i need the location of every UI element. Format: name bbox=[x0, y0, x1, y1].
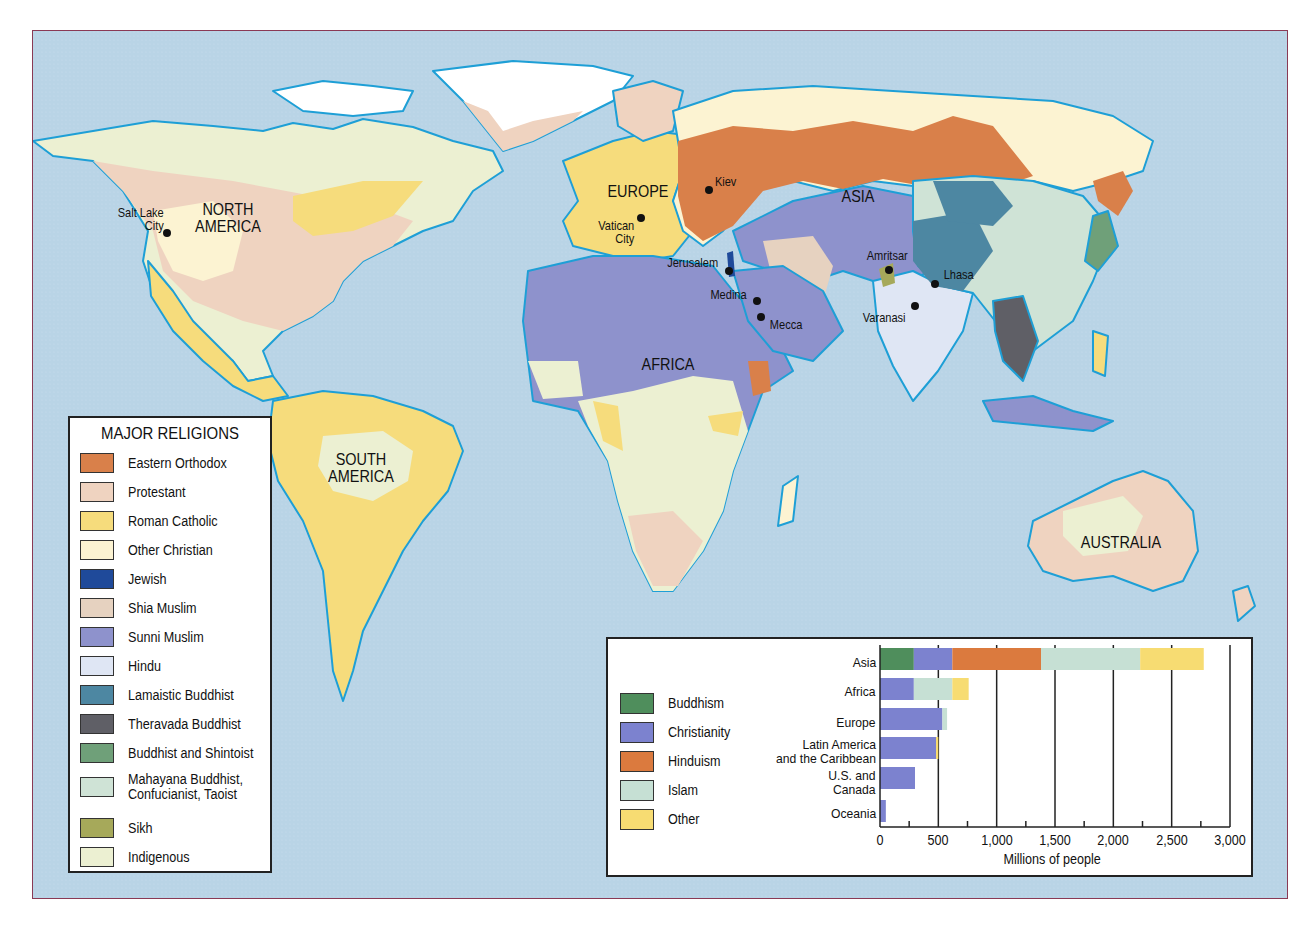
label-europe: EUROPE bbox=[604, 183, 672, 200]
x-tick-label: 2,000 bbox=[1098, 832, 1130, 848]
bar-segment bbox=[1140, 648, 1204, 670]
legend-title: MAJOR RELIGIONS bbox=[82, 424, 258, 444]
swatch-shia-muslim bbox=[80, 598, 114, 618]
x-tick-label: 1,500 bbox=[1039, 832, 1071, 848]
x-tick-label: 0 bbox=[876, 832, 883, 848]
label-salt-lake-city-line2: City bbox=[104, 219, 164, 232]
legend-item-eastern-orthodox: Eastern Orthodox bbox=[80, 450, 238, 476]
gridlines bbox=[938, 645, 1230, 827]
bar-segment bbox=[880, 767, 915, 789]
label-asia: ASIA bbox=[833, 188, 884, 205]
label-lhasa: Lhasa bbox=[944, 268, 974, 281]
legend-label: Buddhist and Shintoist bbox=[128, 746, 253, 761]
legend-item-sunni-muslim: Sunni Muslim bbox=[80, 624, 212, 650]
swatch-indigenous bbox=[80, 847, 114, 867]
bar-segment bbox=[880, 678, 914, 700]
population-by-religion-chart: Buddhism Christianity Hinduism Islam Oth… bbox=[606, 637, 1253, 877]
swatch-other-christian bbox=[80, 540, 114, 560]
swatch-eastern-orthodox bbox=[80, 453, 114, 473]
label-salt-lake-city: Salt Lake City bbox=[104, 206, 164, 232]
x-tick-label: 1,000 bbox=[981, 832, 1013, 848]
swatch-sikh bbox=[80, 818, 114, 838]
city-dot-lhasa bbox=[931, 280, 939, 288]
swatch-lamaistic-buddhist bbox=[80, 685, 114, 705]
legend-label: Other Christian bbox=[128, 543, 213, 558]
label-vatican-city-line2: City bbox=[592, 232, 635, 245]
legend-label: Shia Muslim bbox=[128, 601, 197, 616]
x-axis-title: Millions of people bbox=[1003, 851, 1100, 867]
x-tick-label: 3,000 bbox=[1214, 832, 1246, 848]
city-dot-salt-lake-city bbox=[163, 229, 171, 237]
legend-label-line2: Confucianist, Taoist bbox=[128, 787, 243, 802]
swatch-protestant bbox=[80, 482, 114, 502]
legend-label: Lamaistic Buddhist bbox=[128, 688, 234, 703]
swatch-mahayana bbox=[80, 777, 114, 797]
bar-segment bbox=[880, 800, 886, 822]
legend-item-protestant: Protestant bbox=[80, 479, 192, 505]
x-tick-label: 500 bbox=[928, 832, 949, 848]
bars bbox=[880, 648, 1204, 822]
bar-segment bbox=[1041, 648, 1140, 670]
legend-label: Eastern Orthodox bbox=[128, 456, 227, 471]
legend-item-indigenous: Indigenous bbox=[80, 844, 197, 870]
legend-item-other-christian: Other Christian bbox=[80, 537, 222, 563]
label-jerusalem: Jerusalem bbox=[663, 256, 718, 269]
bar-segment bbox=[952, 648, 1041, 670]
legend-item-shia-muslim: Shia Muslim bbox=[80, 595, 204, 621]
label-south-america: SOUTH AMERICA bbox=[319, 451, 404, 485]
legend-label: Theravada Buddhist bbox=[128, 717, 241, 732]
label-south-america-line1: SOUTH bbox=[319, 451, 404, 468]
bar-segment bbox=[914, 678, 953, 700]
legend-item-lamaistic-buddhist: Lamaistic Buddhist bbox=[80, 682, 246, 708]
swatch-roman-catholic bbox=[80, 511, 114, 531]
bar-segment bbox=[936, 737, 938, 759]
label-amritsar: Amritsar bbox=[867, 249, 908, 262]
city-dot-amritsar bbox=[885, 266, 893, 274]
swatch-buddhist-shintoist bbox=[80, 743, 114, 763]
swatch-hindu bbox=[80, 656, 114, 676]
city-dot-medina bbox=[753, 297, 761, 305]
legend-item-hindu: Hindu bbox=[80, 653, 165, 679]
city-dot-jerusalem bbox=[725, 267, 733, 275]
x-tick-label: 2,500 bbox=[1156, 832, 1188, 848]
swatch-theravada-buddhist bbox=[80, 714, 114, 734]
label-mecca: Mecca bbox=[770, 318, 803, 331]
label-varanasi: Varanasi bbox=[863, 311, 906, 324]
bar-segment bbox=[880, 737, 936, 759]
legend-label: Hindu bbox=[128, 659, 161, 674]
swatch-sunni-muslim bbox=[80, 627, 114, 647]
label-kiev: Kiev bbox=[715, 175, 737, 188]
label-south-america-line2: AMERICA bbox=[319, 468, 404, 485]
legend-label: Protestant bbox=[128, 485, 185, 500]
label-africa: AFRICA bbox=[634, 356, 702, 373]
legend-label: Jewish bbox=[128, 572, 167, 587]
legend-item-jewish: Jewish bbox=[80, 566, 171, 592]
legend-item-roman-catholic: Roman Catholic bbox=[80, 508, 228, 534]
legend-item-theravada-buddhist: Theravada Buddhist bbox=[80, 711, 253, 737]
legend-label: Mahayana Buddhist, Confucianist, Taoist bbox=[128, 772, 243, 801]
bar-segment bbox=[952, 678, 968, 700]
label-medina: Medina bbox=[708, 288, 746, 301]
city-dot-mecca bbox=[757, 313, 765, 321]
label-vatican-city: Vatican City bbox=[592, 219, 635, 245]
label-north-america-line1: NORTH bbox=[186, 201, 271, 218]
city-dot-vatican-city bbox=[637, 214, 645, 222]
bar-segment bbox=[880, 708, 942, 730]
major-religions-legend: MAJOR RELIGIONS Eastern Orthodox Protest… bbox=[68, 416, 272, 873]
bar-segment bbox=[914, 648, 953, 670]
label-north-america: NORTH AMERICA bbox=[186, 201, 271, 235]
legend-label: Indigenous bbox=[128, 850, 190, 865]
label-australia: AUSTRALIA bbox=[1074, 534, 1168, 551]
legend-item-buddhist-shintoist: Buddhist and Shintoist bbox=[80, 740, 267, 766]
legend-label: Roman Catholic bbox=[128, 514, 218, 529]
city-dot-kiev bbox=[705, 186, 713, 194]
legend-item-sikh: Sikh bbox=[80, 815, 155, 841]
label-north-america-line2: AMERICA bbox=[186, 218, 271, 235]
legend-label: Sikh bbox=[128, 821, 153, 836]
legend-item-mahayana: Mahayana Buddhist, Confucianist, Taoist bbox=[80, 771, 256, 803]
legend-label-line1: Mahayana Buddhist, bbox=[128, 772, 243, 787]
swatch-jewish bbox=[80, 569, 114, 589]
city-dot-varanasi bbox=[911, 302, 919, 310]
bar-segment bbox=[942, 708, 947, 730]
bar-segment bbox=[880, 648, 914, 670]
